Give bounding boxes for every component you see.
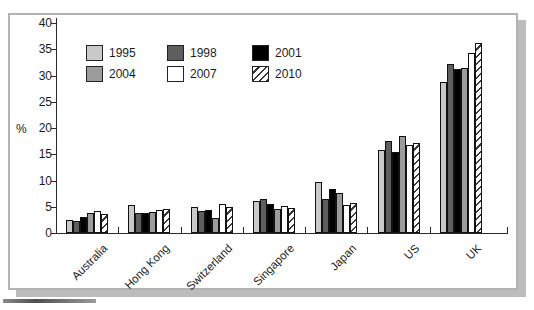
bar-1995 <box>66 220 73 233</box>
bar-2010 <box>475 43 482 233</box>
bar-group-us <box>378 136 420 233</box>
bar-1998 <box>385 141 392 233</box>
y-tick-label: 0 <box>14 226 52 240</box>
bar-1998 <box>73 221 80 233</box>
bar-2004 <box>212 218 219 233</box>
bar-group-switzerland <box>191 204 233 233</box>
bar-chart: % 199519982001200420072010 0510152025303… <box>10 15 516 288</box>
legend-label: 2001 <box>275 46 302 60</box>
bar-2010 <box>413 143 420 233</box>
bar-2001 <box>329 189 336 233</box>
x-tick <box>305 227 306 233</box>
y-tick-label: 15 <box>14 147 52 161</box>
y-tick-label: 10 <box>14 174 52 188</box>
legend-item-1998: 1998 <box>167 45 252 61</box>
bar-group-australia <box>66 211 108 233</box>
bar-1995 <box>128 205 135 233</box>
bar-1998 <box>447 64 454 233</box>
bar-1998 <box>135 213 142 233</box>
bar-2004 <box>149 212 156 233</box>
legend-item-2007: 2007 <box>167 66 252 82</box>
legend-item-2004: 2004 <box>86 66 167 82</box>
bar-1995 <box>440 82 447 233</box>
bar-2010 <box>288 208 295 233</box>
bar-group-hong-kong <box>128 205 170 233</box>
bar-2007 <box>94 211 101 233</box>
bar-2001 <box>392 152 399 233</box>
bar-2004 <box>399 136 406 233</box>
bar-2004 <box>461 68 468 233</box>
bar-2010 <box>101 214 108 233</box>
bar-2004 <box>274 209 281 233</box>
y-tick-label: 30 <box>14 69 52 83</box>
legend-item-2010: 2010 <box>252 66 302 82</box>
bar-2001 <box>454 69 461 233</box>
legend-swatch-2010 <box>252 66 269 82</box>
chart-frame: % 199519982001200420072010 0510152025303… <box>8 13 518 290</box>
legend: 199519982001200420072010 <box>86 45 302 82</box>
bar-2007 <box>219 204 226 233</box>
bar-2007 <box>468 53 475 233</box>
x-tick <box>430 227 431 233</box>
legend-item-1995: 1995 <box>86 45 167 61</box>
legend-swatch-2001 <box>252 45 269 61</box>
legend-label: 2010 <box>275 67 302 81</box>
legend-item-2001: 2001 <box>252 45 302 61</box>
bar-2007 <box>406 145 413 233</box>
bar-1995 <box>253 201 260 233</box>
bar-2007 <box>156 210 163 233</box>
x-tick <box>118 227 119 233</box>
bar-2004 <box>336 193 343 233</box>
legend-swatch-1998 <box>167 45 184 61</box>
legend-swatch-2007 <box>167 66 184 82</box>
y-tick-label: 25 <box>14 95 52 109</box>
x-tick <box>507 227 508 233</box>
bar-1995 <box>315 182 322 233</box>
bar-1998 <box>198 211 205 233</box>
legend-swatch-1995 <box>86 45 103 61</box>
bar-group-japan <box>315 182 357 233</box>
bar-2010 <box>350 203 357 233</box>
legend-label: 1998 <box>190 46 217 60</box>
bar-2010 <box>226 207 233 233</box>
bar-1998 <box>322 199 329 233</box>
bar-2001 <box>267 204 274 233</box>
bar-group-uk <box>440 43 482 233</box>
y-tick-label: 35 <box>14 42 52 56</box>
bar-2004 <box>87 213 94 233</box>
bar-2007 <box>343 205 350 233</box>
x-axis <box>56 233 508 234</box>
bar-group-singapore <box>253 199 295 233</box>
x-tick <box>243 227 244 233</box>
legend-label: 1995 <box>109 46 136 60</box>
bar-1995 <box>191 207 198 233</box>
legend-label: 2004 <box>109 67 136 81</box>
bar-1998 <box>260 199 267 233</box>
bar-2010 <box>163 209 170 233</box>
y-tick-label: 20 <box>14 121 52 135</box>
bar-2007 <box>281 206 288 233</box>
bar-2001 <box>80 217 87 233</box>
legend-label: 2007 <box>190 67 217 81</box>
caption-rule <box>3 299 96 303</box>
legend-swatch-2004 <box>86 66 103 82</box>
y-tick-label: 5 <box>14 200 52 214</box>
x-tick <box>181 227 182 233</box>
y-tick-label: 40 <box>14 16 52 30</box>
bar-2001 <box>142 213 149 233</box>
bar-2001 <box>205 210 212 233</box>
x-tick <box>367 227 368 233</box>
bar-1995 <box>378 150 385 233</box>
